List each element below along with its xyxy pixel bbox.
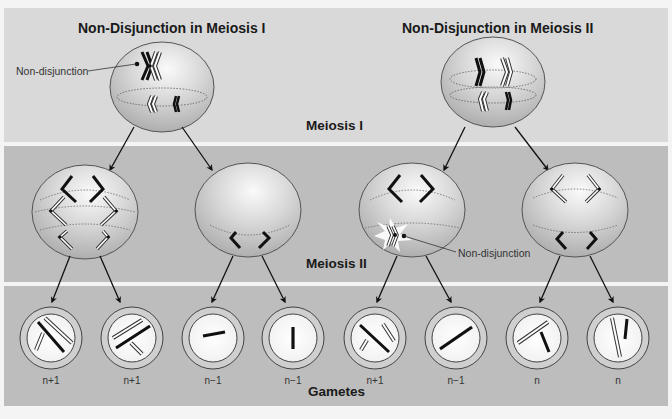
gamete-2 [101, 307, 163, 369]
gamete-label: n−1 [193, 375, 233, 386]
cell-meiosis1-daughter-b [195, 163, 301, 257]
cell-meiosis2-parent [441, 37, 545, 127]
gamete-label: n−1 [436, 375, 476, 386]
arrows-meiosis1 [110, 127, 548, 170]
stage-label-meiosis-1: Meiosis I [306, 118, 363, 133]
gamete-label: n [517, 375, 557, 386]
stage-label-gametes: Gametes [308, 384, 365, 399]
gamete-label: n+1 [112, 375, 152, 386]
gamete-label: n+1 [31, 375, 71, 386]
cell-meiosis1-parent [110, 42, 214, 132]
gamete-label: n−1 [273, 375, 313, 386]
gamete-6 [425, 307, 487, 369]
gamete-1 [20, 307, 82, 369]
label-nondisjunction-mid: Non-disjunction [458, 247, 530, 259]
gamete-7 [506, 307, 568, 369]
gamete-5 [344, 307, 406, 369]
cell-meiosis1-daughter-a [32, 165, 138, 259]
title-meiosis-1: Non-Disjunction in Meiosis I [78, 20, 265, 36]
gamete-label: n [598, 375, 638, 386]
cell-meiosis2-daughter-a [359, 163, 465, 257]
title-meiosis-2: Non-Disjunction in Meiosis II [402, 20, 593, 36]
gamete-8 [587, 307, 649, 369]
label-nondisjunction-top: Non-disjunction [16, 65, 88, 77]
stage-label-meiosis-2: Meiosis II [306, 256, 367, 271]
gamete-4 [262, 307, 324, 369]
gamete-label: n+1 [355, 375, 395, 386]
diagram-artwork [0, 0, 672, 419]
gamete-3 [182, 307, 244, 369]
cell-meiosis2-daughter-b [522, 163, 628, 257]
